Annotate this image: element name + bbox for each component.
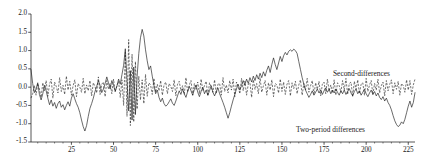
x-tick-label: 75 — [144, 146, 168, 154]
plot-area — [0, 0, 422, 167]
y-tick-label: 2.0 — [1, 9, 27, 17]
series-label-second-differences: Second-differences — [333, 69, 390, 78]
y-tick-label: 0.5 — [1, 64, 27, 72]
x-tick-label: 50 — [102, 146, 126, 154]
x-tick-label: 225 — [396, 146, 420, 154]
x-tick-label: 25 — [59, 146, 83, 154]
chart-container: 2.01.51.00.50.0-0.5-1.0-1.5 255075100125… — [0, 0, 422, 167]
series-label-two-period-differences: Two-period differences — [296, 125, 365, 134]
y-tick-label: -0.5 — [1, 101, 27, 109]
y-tick-label: 0.0 — [1, 83, 27, 91]
x-tick-label: 100 — [186, 146, 210, 154]
x-tick-label: 175 — [312, 146, 336, 154]
x-tick-label: 125 — [228, 146, 252, 154]
y-tick-label: 1.0 — [1, 46, 27, 54]
x-tick-label: 150 — [270, 146, 294, 154]
series-path-0 — [31, 40, 415, 126]
x-tick-label: 200 — [354, 146, 378, 154]
chart-series-group — [31, 29, 415, 131]
y-tick-label: -1.5 — [1, 137, 27, 145]
y-tick-label: 1.5 — [1, 28, 27, 36]
y-tick-label: -1.0 — [1, 119, 27, 127]
